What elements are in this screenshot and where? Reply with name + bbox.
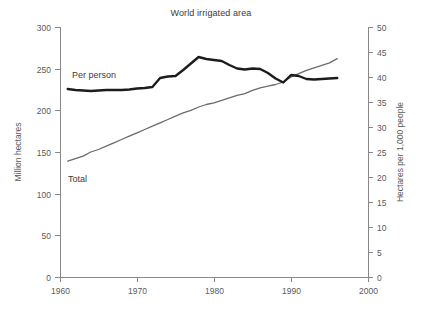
left-tick-label: 150: [37, 148, 51, 158]
right-tick-label: 5: [377, 248, 382, 258]
right-tick-label: 20: [377, 173, 387, 183]
left-tick-label: 100: [37, 190, 51, 200]
series-label-total: Total: [68, 174, 87, 184]
x-tick-label: 1960: [51, 286, 70, 296]
chart-figure: World irrigated area 050100150200250300 …: [0, 0, 422, 313]
right-axis-ticks: 05101520253035404550: [368, 23, 387, 283]
x-tick-label: 1970: [128, 286, 147, 296]
x-tick-label: 2000: [359, 286, 378, 296]
right-tick-label: 40: [377, 73, 387, 83]
right-tick-label: 35: [377, 98, 387, 108]
x-tick-label: 1990: [282, 286, 301, 296]
left-tick-label: 0: [46, 273, 51, 283]
series-label-per-person: Per person: [72, 70, 116, 80]
right-axis-title: Hectares per 1,000 people: [395, 102, 405, 202]
left-axis-title: Million hectares: [13, 122, 23, 181]
right-tick-label: 15: [377, 198, 387, 208]
left-tick-label: 200: [37, 106, 51, 116]
right-tick-label: 30: [377, 123, 387, 133]
left-tick-label: 300: [37, 23, 51, 33]
left-axis-ticks: 050100150200250300: [37, 23, 60, 283]
x-axis-ticks: 19601970198019902000: [51, 277, 378, 296]
x-tick-label: 1980: [205, 286, 224, 296]
chart-plot-area: 050100150200250300 05101520253035404550 …: [0, 0, 422, 313]
right-tick-label: 25: [377, 148, 387, 158]
left-tick-label: 250: [37, 65, 51, 75]
right-tick-label: 10: [377, 223, 387, 233]
right-tick-label: 50: [377, 23, 387, 33]
right-tick-label: 0: [377, 273, 382, 283]
left-tick-label: 50: [42, 231, 52, 241]
right-tick-label: 45: [377, 48, 387, 58]
